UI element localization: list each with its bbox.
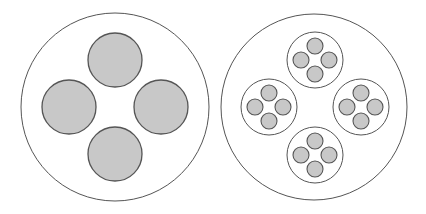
mini-filled-circle	[321, 147, 337, 163]
mini-filled-circle	[293, 147, 309, 163]
filled-circle	[88, 127, 142, 181]
sub-circle-group	[287, 32, 343, 88]
filled-circle	[134, 80, 188, 134]
mini-filled-circle	[321, 52, 337, 68]
left-circle-group	[21, 13, 209, 201]
mini-filled-circle	[339, 99, 355, 115]
mini-filled-circle	[275, 99, 291, 115]
mini-filled-circle	[261, 85, 277, 101]
mini-filled-circle	[307, 133, 323, 149]
mini-filled-circle	[367, 99, 383, 115]
right-circle-group	[221, 14, 407, 200]
mini-filled-circle	[353, 85, 369, 101]
mini-filled-circle	[307, 38, 323, 54]
nested-circles-diagram	[0, 0, 426, 214]
filled-circle	[42, 80, 96, 134]
mini-filled-circle	[307, 161, 323, 177]
mini-filled-circle	[261, 113, 277, 129]
sub-circle-group	[241, 79, 297, 135]
mini-filled-circle	[293, 52, 309, 68]
sub-circle-group	[287, 127, 343, 183]
mini-filled-circle	[307, 66, 323, 82]
mini-filled-circle	[247, 99, 263, 115]
sub-circle-group	[333, 79, 389, 135]
filled-circle	[88, 33, 142, 87]
mini-filled-circle	[353, 113, 369, 129]
